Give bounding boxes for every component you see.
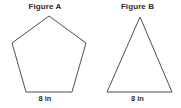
pentagon-shape-svg [0, 0, 92, 108]
geometry-figures-worksheet: Figure A 8 in Figure B 8 in [0, 0, 181, 108]
pentagon-icon [12, 16, 86, 92]
triangle-icon [107, 17, 172, 92]
figure-a-panel: Figure A 8 in [0, 0, 92, 108]
triangle-shape-svg [92, 0, 181, 108]
figure-a-base-length-label: 8 in [0, 94, 91, 104]
figure-b-panel: Figure B 8 in [92, 0, 181, 108]
figure-b-base-length-label: 8 in [93, 94, 181, 104]
